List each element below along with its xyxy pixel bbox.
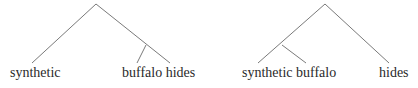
left-tree <box>32 4 170 63</box>
leaf-label-buffalo-hides: buffalo hides <box>122 66 195 80</box>
left-tree-left-branch <box>32 4 96 63</box>
right-tree-left-branch <box>258 4 325 63</box>
left-tree-right-branch <box>96 4 170 63</box>
right-tree-sub-branch <box>282 45 306 63</box>
tree-lines <box>0 0 418 88</box>
leaf-label-synthetic: synthetic <box>10 66 61 80</box>
leaf-label-synthetic-buffalo: synthetic buffalo <box>242 66 336 80</box>
right-tree <box>258 4 389 63</box>
diagram-canvas: synthetic buffalo hides synthetic buffal… <box>0 0 418 88</box>
left-tree-sub-branch <box>137 45 146 63</box>
right-tree-right-branch <box>325 4 389 63</box>
leaf-label-hides: hides <box>379 66 409 80</box>
